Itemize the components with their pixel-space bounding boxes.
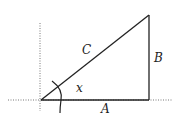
label-c: C [82, 43, 91, 57]
side-c-hypotenuse [41, 15, 149, 100]
triangle-diagram: C B x A [0, 0, 180, 121]
label-a: A [100, 102, 110, 116]
label-b: B [153, 51, 163, 65]
label-x: x [76, 81, 83, 95]
